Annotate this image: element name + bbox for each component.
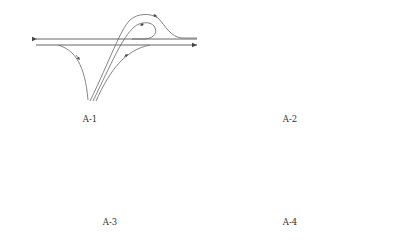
ramp-diagonal-inner: [93, 23, 156, 101]
loop-arrow-b: [141, 24, 144, 25]
ramp-left-down: [58, 45, 88, 100]
panel-label-a2: A-2: [283, 114, 297, 124]
panel-a1: [36, 14, 197, 101]
panel-label-a4: A-4: [283, 217, 297, 227]
ramp-diagonal-outer: [90, 14, 197, 101]
ramp-right-merge: [96, 45, 150, 101]
panel-label-a3: A-3: [103, 217, 117, 227]
interchange-diagram-figure: [0, 0, 400, 241]
panel-label-a1: A-1: [83, 114, 97, 124]
